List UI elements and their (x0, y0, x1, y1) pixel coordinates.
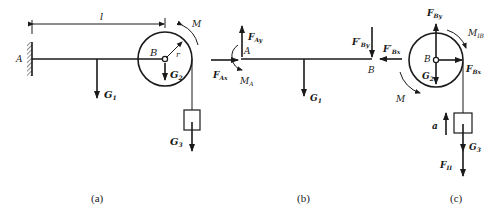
panel-a: A l r B G2 G1 M G3 (a) (15, 11, 202, 205)
label-ma: MA (239, 76, 254, 87)
label-fby-prime: F′By (351, 37, 370, 49)
label-g2: G2 (170, 69, 183, 81)
label-moment-m: M (191, 19, 202, 29)
label-fbx: FBx (465, 64, 481, 75)
label-fby: FBy (426, 8, 442, 20)
panel-b: A B FAx FAy MA G1 F′By (b) (211, 26, 375, 205)
label-g2-free: G2 (422, 71, 434, 82)
caption-b: (b) (297, 192, 310, 205)
panel-c: B F′Bx FBy FBx G2 MIB M a G3 FII (c) (380, 8, 485, 205)
caption-c: (c) (450, 192, 463, 205)
label-mib: MIB (467, 28, 485, 39)
label-g3: G3 (170, 136, 183, 148)
label-m: M (395, 94, 406, 104)
label-length-l: l (100, 11, 103, 22)
mechanics-figure: A l r B G2 G1 M G3 (a) A B FAx (0, 0, 493, 219)
ma-arrow (232, 45, 242, 70)
label-support-a: A (15, 54, 23, 64)
mib-arrow (447, 30, 466, 48)
label-center-b: B (423, 54, 431, 64)
label-fay: FAy (247, 32, 263, 44)
pulley-free-pin (433, 57, 438, 62)
label-end-a: A (243, 46, 251, 56)
label-fi: FII (439, 160, 452, 171)
label-end-b: B (367, 65, 375, 75)
label-g3-free: G3 (469, 142, 481, 153)
label-accel: a (432, 121, 438, 131)
m-arrow (400, 72, 420, 93)
label-g1-free: G1 (310, 93, 322, 104)
label-fbx-prime: F′Bx (382, 44, 401, 55)
label-radius-r: r (176, 50, 181, 59)
label-fax: FAx (212, 70, 228, 81)
label-g1: G1 (104, 89, 117, 101)
caption-a: (a) (91, 192, 104, 205)
label-pulley-b: B (149, 47, 157, 58)
